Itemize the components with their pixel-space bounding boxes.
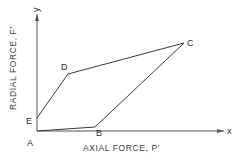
point-label-b: B — [96, 128, 102, 138]
force-diagram: x y A B C D E AXIAL FORCE, P′ RADIAL FOR… — [0, 0, 240, 161]
point-label-d: D — [61, 62, 68, 72]
point-label-e: E — [26, 116, 32, 126]
load-envelope-polygon — [37, 43, 184, 131]
y-axis-end-label: y — [31, 7, 41, 12]
point-label-c: C — [187, 38, 194, 48]
y-axis-title: RADIAL FORCE, F′ — [8, 26, 18, 110]
point-label-a: A — [27, 138, 33, 148]
x-axis-title: AXIAL FORCE, P′ — [83, 143, 160, 153]
x-axis-end-label: x — [227, 126, 232, 136]
